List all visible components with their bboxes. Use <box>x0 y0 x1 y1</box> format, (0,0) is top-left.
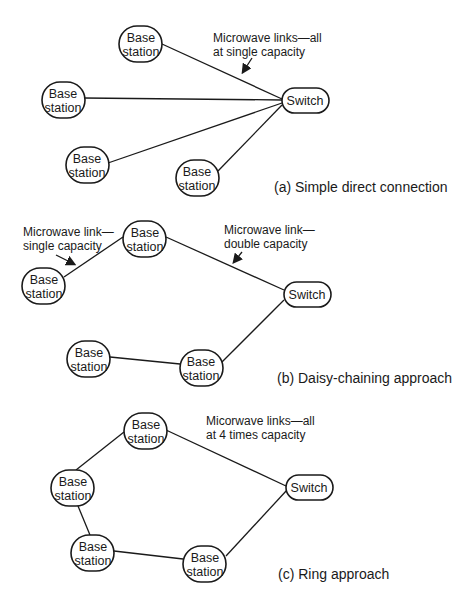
svg-text:station: station <box>127 240 164 254</box>
svg-text:station: station <box>123 45 160 59</box>
svg-text:station: station <box>183 369 220 383</box>
annotation-b-left-line2: single capacity <box>23 239 102 253</box>
annotation-b-right-line2: double capacity <box>224 237 307 251</box>
svg-text:Base: Base <box>127 31 156 45</box>
base-station-node: Base station <box>176 160 219 196</box>
svg-text:Base: Base <box>30 273 59 287</box>
svg-text:station: station <box>69 166 106 180</box>
network-topology-diagram: Microwave links—all at single capacity B… <box>0 0 454 603</box>
svg-text:station: station <box>26 287 63 301</box>
svg-text:station: station <box>45 101 82 115</box>
svg-text:Base: Base <box>75 346 104 360</box>
annotation-b-left-line1: Microwave link— <box>23 225 114 239</box>
arrow-icon <box>56 255 74 264</box>
svg-text:station: station <box>179 179 216 193</box>
svg-text:Base: Base <box>131 226 160 240</box>
annotation-c-line2: at 4 times capacity <box>206 428 305 442</box>
svg-text:station: station <box>55 489 92 503</box>
svg-text:Base: Base <box>132 418 161 432</box>
caption-a: (a) Simple direct connection <box>274 179 448 195</box>
annotation-a-line2: at single capacity <box>213 45 305 59</box>
base-station-node: Base station <box>66 147 109 183</box>
svg-text:station: station <box>187 565 224 579</box>
svg-text:Base: Base <box>79 540 108 554</box>
annotation-b-right-line1: Microwave link— <box>224 223 315 237</box>
panel-a-direct-connection: Microwave links—all at single capacity B… <box>42 26 448 196</box>
svg-text:station: station <box>128 432 165 446</box>
switch-node: Switch <box>284 282 331 307</box>
svg-text:Base: Base <box>59 475 88 489</box>
base-station-node: Base station <box>51 470 94 506</box>
panel-b-daisy-chaining: Microwave link— single capacity Microwav… <box>22 221 452 386</box>
link-c4 <box>114 551 183 559</box>
base-station-node: Base station <box>71 535 114 571</box>
link-a2 <box>84 98 282 100</box>
link-c1 <box>76 432 124 470</box>
svg-text:Base: Base <box>191 551 220 565</box>
base-station-node: Base station <box>67 341 110 377</box>
link-a3 <box>108 103 282 163</box>
base-station-node: Base station <box>42 82 85 118</box>
base-station-node: Base station <box>183 546 226 582</box>
base-station-node: Base station <box>22 268 65 304</box>
caption-c: (c) Ring approach <box>278 566 389 582</box>
svg-text:Base: Base <box>73 152 102 166</box>
annotation-a-line1: Microwave links—all <box>213 31 322 45</box>
link-a4 <box>218 105 282 171</box>
switch-node: Switch <box>286 475 333 500</box>
caption-b: (b) Daisy-chaining approach <box>277 370 452 386</box>
svg-text:station: station <box>75 554 112 568</box>
svg-text:Base: Base <box>183 165 212 179</box>
base-station-node: Base station <box>119 26 162 62</box>
link-c5 <box>226 490 287 556</box>
link-b3 <box>110 357 180 364</box>
svg-text:Base: Base <box>49 87 78 101</box>
annotation-c-line1: Micorwave links—all <box>206 414 315 428</box>
base-station-node: Base station <box>180 350 223 386</box>
svg-text:Base: Base <box>187 355 216 369</box>
svg-text:Switch: Switch <box>289 288 326 302</box>
svg-text:station: station <box>71 360 108 374</box>
panel-c-ring: Micorwave links—all at 4 times capacity … <box>51 413 389 582</box>
link-c3 <box>78 506 90 535</box>
arrow-icon <box>234 252 242 262</box>
arrow-icon <box>243 58 252 72</box>
link-b4 <box>222 300 284 362</box>
svg-text:Switch: Switch <box>291 481 328 495</box>
base-station-node: Base station <box>123 221 166 257</box>
svg-text:Switch: Switch <box>287 94 324 108</box>
base-station-node: Base station <box>124 413 167 449</box>
switch-node: Switch <box>282 88 329 113</box>
